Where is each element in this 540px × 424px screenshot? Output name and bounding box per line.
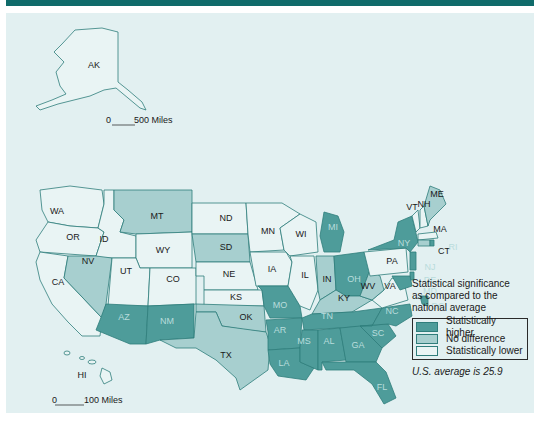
state-label-MT: MT [151,211,164,221]
state-label-NJ: NJ [425,262,436,272]
state-label-WI: WI [296,229,307,239]
state-label-FL: FL [377,382,388,392]
swatch-higher [416,322,438,332]
state-label-NE: NE [223,269,236,279]
state-label-OK: OK [239,312,252,322]
legend-title: Statistical significance as compared to … [412,278,534,314]
state-label-NC: NC [386,306,399,316]
state-label-AR: AR [274,325,287,335]
legend-item-higher: Statistically higher [416,321,524,333]
state-label-SC: SC [372,328,385,338]
legend-box: Statistically higher No difference Stati… [412,318,528,360]
legend: Statistical significance as compared to … [412,278,534,378]
state-label-ME: ME [430,189,444,199]
state-label-PA: PA [386,256,397,266]
state-label-OR: OR [66,232,80,242]
state-label-AK: AK [88,60,100,70]
state-label-KS: KS [230,292,242,302]
state-HI[interactable] [100,368,112,384]
alaska-scale-zero: 0 [106,115,111,125]
state-label-AL: AL [323,336,334,346]
state-label-GA: GA [351,340,364,350]
us-average-note: U.S. average is 25.9 [412,366,534,378]
state-label-AZ: AZ [118,312,130,322]
state-RI[interactable] [430,240,434,246]
state-label-IA: IA [268,264,277,274]
state-label-ID: ID [100,234,110,244]
state-label-HI: HI [78,370,87,380]
alaska-inset: AK 0 500 Miles [36,28,173,125]
state-label-SD: SD [220,242,233,252]
state-label-IN: IN [323,274,332,284]
state-NY[interactable] [368,216,418,252]
state-label-MA: MA [433,224,447,234]
state-label-WA: WA [50,206,64,216]
state-label-NH: NH [418,199,431,209]
state-label-UT: UT [120,266,132,276]
state-CT[interactable] [418,240,430,246]
state-label-CA: CA [52,277,65,287]
state-label-MO: MO [273,300,288,310]
state-label-IL: IL [301,270,309,280]
state-label-WV: WV [361,281,376,291]
hawaii-scale-label: 100 Miles [84,395,123,405]
legend-item-lower: Statistically lower [416,345,524,357]
alaska-scale-label: 500 Miles [134,115,173,125]
state-label-MN: MN [261,226,275,236]
state-label-NY: NY [398,238,411,248]
state-label-MI: MI [328,222,338,232]
state-label-VA: VA [384,281,395,291]
header-bar [6,0,534,6]
swatch-lower [416,346,438,356]
state-label-MS: MS [297,336,311,346]
swatch-nodiff [416,334,438,344]
state-label-LA: LA [278,358,289,368]
state-label-VT: VT [406,202,418,212]
state-label-WY: WY [156,245,171,255]
states-layer: WAORCAIDNVMTWYUTCOAZNMNDSDNEKSOKTXMNIAMO… [36,186,458,404]
hawaii-scale-zero: 0 [52,395,57,405]
state-label-RI: RI [449,242,458,252]
state-AZ[interactable] [96,304,148,344]
state-label-NM: NM [160,316,174,326]
state-label-KY: KY [338,293,350,303]
state-label-NV: NV [82,256,95,266]
state-label-TX: TX [220,350,232,360]
state-label-TN: TN [321,311,333,321]
state-label-OH: OH [347,274,361,284]
hawaii-inset: HI 0 100 Miles [52,351,123,405]
state-NJ[interactable] [410,252,416,270]
state-label-CO: CO [166,274,180,284]
state-label-ND: ND [220,213,233,223]
